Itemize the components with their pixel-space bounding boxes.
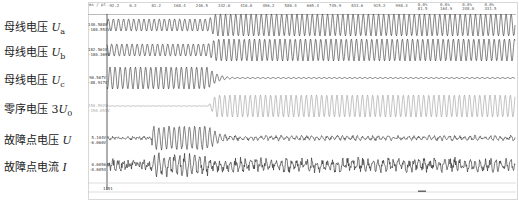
- waveform-trace: [107, 95, 515, 117]
- channel-label-fault-i: 故障点电流 I: [4, 158, 67, 175]
- cursor-position-label: 1151: [103, 186, 113, 191]
- channel-label-ua: 母线电压 Ua: [4, 18, 65, 36]
- waveform-trace: [107, 67, 515, 89]
- waveform-panel: ms / pt -92.20.381.2168.4246.5332.6416.0…: [88, 2, 518, 200]
- waveform-trace: [107, 126, 515, 150]
- waveform-canvas: [88, 2, 518, 200]
- waveform-trace: [107, 39, 515, 61]
- channel-label-fault-u: 故障点电压 U: [4, 131, 71, 148]
- waveform-trace: [107, 14, 515, 36]
- channel-label-3u0: 零序电压 3U0: [4, 100, 72, 118]
- channel-label-uc: 母线电压 Uc: [4, 71, 65, 89]
- waveform-trace: [107, 153, 515, 177]
- scrollbar-thumb[interactable]: [418, 191, 426, 193]
- channel-label-ub: 母线电压 Ub: [4, 43, 65, 61]
- channel-labels: 母线电压 Ua 母线电压 Ub 母线电压 Uc 零序电压 3U0 故障点电压 U…: [0, 0, 90, 202]
